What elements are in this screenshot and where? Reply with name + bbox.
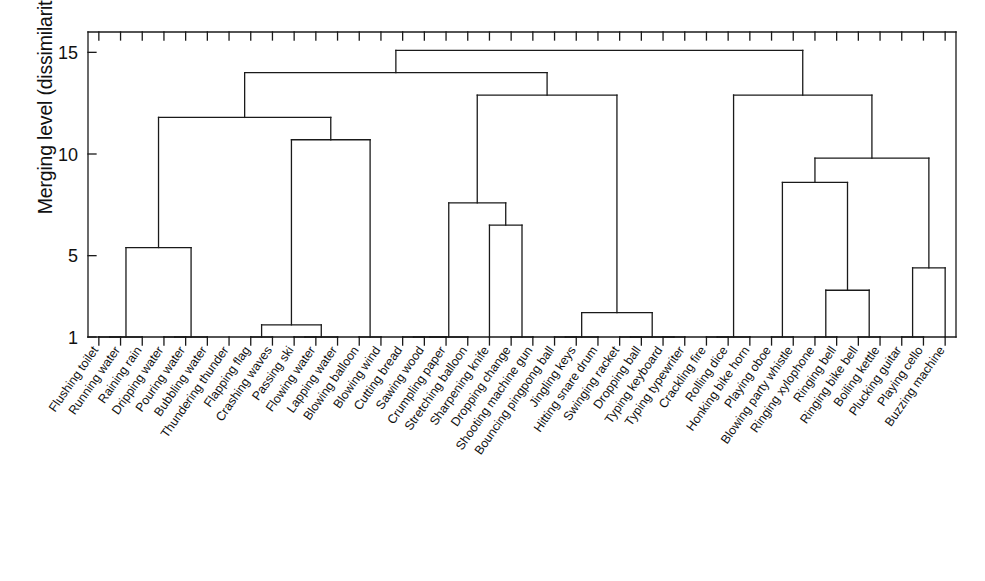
dendrogram-canvas: 151015 Flushing toiletRunning waterRaini… [0,0,985,581]
dendrogram-tree [99,50,945,337]
y-tick-label: 5 [68,246,78,266]
dendrogram-figure: Merging level (dissimilarity) 151015 Flu… [0,0,985,581]
y-tick-label: 10 [58,145,78,165]
y-tick-label: 15 [58,43,78,63]
y-tick-label: 1 [68,328,78,348]
y-axis-ticks: 151015 [58,43,96,348]
leaf-labels: Flushing toiletRunning waterRaining rain… [46,343,948,457]
